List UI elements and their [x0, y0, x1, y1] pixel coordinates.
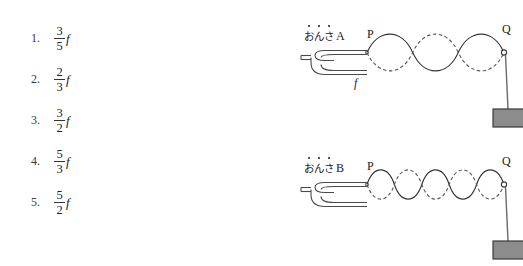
standing-wave-b [367, 170, 504, 199]
figure-b-drawing [288, 140, 523, 266]
variable-f: f [66, 154, 70, 170]
fraction-denominator: 3 [54, 162, 64, 176]
fraction-numerator: 5 [54, 148, 64, 162]
option-expression: 3 2 f [54, 107, 70, 135]
fraction-numerator: 5 [54, 189, 64, 203]
list-item[interactable]: 4. 5 3 f [14, 141, 254, 182]
wave-b-solid [367, 170, 504, 199]
fraction: 3 5 [54, 25, 65, 53]
weight-block-a [493, 109, 523, 127]
fraction-numerator: 3 [54, 25, 64, 39]
fraction: 5 2 [54, 189, 65, 217]
list-item[interactable]: 3. 3 2 f [14, 100, 254, 141]
option-expression: 5 2 f [54, 189, 70, 217]
option-number: 3. [14, 113, 40, 128]
fraction-numerator: 3 [54, 107, 64, 121]
variable-f: f [66, 31, 70, 47]
wave-b-dashed [367, 170, 504, 199]
option-number: 4. [14, 154, 40, 169]
fraction: 5 3 [54, 148, 65, 176]
option-expression: 3 5 f [54, 25, 70, 53]
fraction-denominator: 3 [54, 80, 64, 94]
wave-a-dashed [367, 34, 504, 71]
variable-f: f [66, 195, 70, 211]
standing-wave-a [367, 34, 504, 71]
answer-options-list: 1. 3 5 f 2. 2 3 f 3. 3 2 [14, 18, 254, 223]
fraction-denominator: 5 [54, 39, 64, 53]
pulley-q-a [501, 50, 506, 55]
figure-a-drawing [288, 8, 523, 138]
fraction-numerator: 2 [54, 66, 64, 80]
hanging-string-b [506, 187, 509, 241]
list-item[interactable]: 1. 3 5 f [14, 18, 254, 59]
fraction-denominator: 2 [54, 121, 64, 135]
fraction-denominator: 2 [54, 203, 64, 217]
figure-tuning-fork-a: おんさA P Q f [288, 8, 523, 138]
fraction: 2 3 [54, 66, 65, 94]
option-number: 2. [14, 72, 40, 87]
variable-f: f [66, 72, 70, 88]
fraction: 3 2 [54, 107, 65, 135]
option-number: 5. [14, 195, 40, 210]
list-item[interactable]: 5. 5 2 f [14, 182, 254, 223]
pulley-q-b [501, 182, 506, 187]
option-expression: 2 3 f [54, 66, 70, 94]
figures-panel: おんさA P Q f [288, 0, 523, 266]
weight-block-b [493, 241, 523, 259]
option-expression: 5 3 f [54, 148, 70, 176]
wave-a-solid [367, 34, 504, 71]
hanging-string-a [506, 55, 509, 109]
list-item[interactable]: 2. 2 3 f [14, 59, 254, 100]
option-number: 1. [14, 31, 40, 46]
variable-f: f [66, 113, 70, 129]
tuning-fork-a-icon [301, 51, 367, 75]
tuning-fork-b-icon [301, 183, 367, 207]
figure-tuning-fork-b: おんさB P Q [288, 140, 523, 266]
